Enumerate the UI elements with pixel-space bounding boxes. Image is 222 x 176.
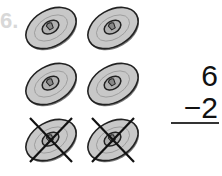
- subtrahend: 2: [201, 91, 218, 124]
- disk-icon: [22, 60, 80, 108]
- crossed-disk-icon: [84, 116, 142, 164]
- subtrahend-row: −2: [172, 92, 222, 124]
- minus-sign: −: [184, 91, 202, 124]
- minuend: 6: [172, 60, 222, 92]
- crossed-disk-icon: [22, 116, 80, 164]
- disk-icon: [84, 4, 142, 52]
- disk-icon: [84, 60, 142, 108]
- answer-line: [171, 122, 219, 124]
- disk-icon: [22, 4, 80, 52]
- problem-number: 6.: [0, 8, 18, 34]
- subtraction-problem: 6 −2: [172, 60, 222, 124]
